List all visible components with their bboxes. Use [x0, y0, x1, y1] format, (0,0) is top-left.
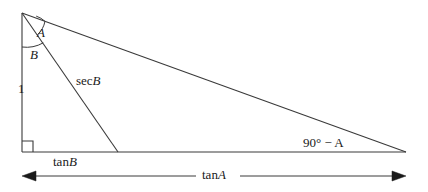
secb-label: secB — [76, 74, 101, 87]
tana-label-function: tan — [202, 167, 218, 182]
tanb-label: tanB — [53, 155, 77, 168]
tana-label-argument: A — [218, 167, 226, 182]
complement-angle-label: 90° − A — [303, 136, 344, 149]
arrow-head-left-icon — [22, 171, 36, 181]
tanb-label-argument: B — [69, 154, 77, 169]
arrow-head-right-icon — [392, 171, 406, 181]
tanb-label-function: tan — [53, 154, 69, 169]
secb-label-function: sec — [76, 73, 93, 88]
unit-side-label: 1 — [18, 82, 25, 95]
tana-label: tanA — [198, 168, 230, 181]
right-angle-marker — [22, 141, 33, 152]
angle-b-label: B — [30, 48, 38, 61]
geometry-diagram: A B 1 secB 90° − A tanB tanA — [0, 0, 428, 192]
secb-label-argument: B — [93, 73, 101, 88]
angle-a-label: A — [37, 26, 45, 39]
